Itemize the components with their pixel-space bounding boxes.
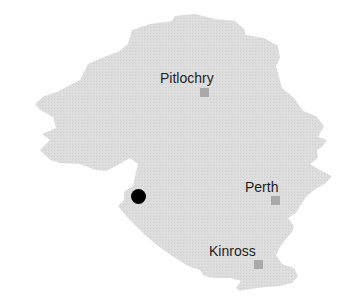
region-outline xyxy=(35,14,332,291)
location-dot-icon xyxy=(131,189,146,204)
town-label: Kinross xyxy=(209,243,256,259)
town-label: Perth xyxy=(245,179,278,195)
town-square-icon xyxy=(200,88,209,97)
town-square-icon xyxy=(271,196,280,205)
region-map xyxy=(0,0,345,304)
town-square-icon xyxy=(254,260,263,269)
town-label: Pitlochry xyxy=(160,70,214,86)
